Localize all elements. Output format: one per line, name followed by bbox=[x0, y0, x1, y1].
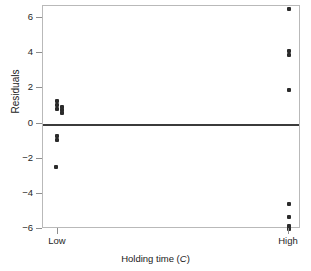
data-point bbox=[287, 88, 291, 92]
y-axis-tick bbox=[36, 123, 42, 124]
y-axis-title: Residuals bbox=[10, 37, 21, 147]
x-axis-title: Holding time (C) bbox=[0, 253, 311, 264]
data-point bbox=[287, 49, 291, 53]
zero-reference-line bbox=[43, 124, 299, 126]
y-axis-tick bbox=[36, 158, 42, 159]
x-axis-tick-label: Low bbox=[48, 236, 65, 246]
data-point bbox=[55, 134, 59, 138]
y-axis-tick-label: −2 bbox=[11, 153, 33, 163]
y-axis-tick-label: −4 bbox=[11, 188, 33, 198]
y-axis-tick bbox=[36, 87, 42, 88]
y-axis-tick-label: −6 bbox=[11, 223, 33, 233]
residual-plot-figure: 6420−2−4−6 LowHigh Residuals Holding tim… bbox=[0, 0, 311, 271]
y-axis-tick bbox=[36, 17, 42, 18]
data-point bbox=[287, 215, 291, 219]
x-axis-tick-label: High bbox=[278, 236, 298, 246]
data-point bbox=[55, 107, 59, 111]
x-axis-tick bbox=[288, 228, 289, 234]
data-point bbox=[287, 7, 291, 11]
y-axis-tick-label: 6 bbox=[11, 12, 33, 22]
data-point bbox=[54, 165, 58, 169]
y-axis-tick bbox=[36, 52, 42, 53]
data-point bbox=[55, 99, 59, 103]
data-point bbox=[287, 53, 291, 57]
data-point bbox=[287, 202, 291, 206]
y-axis-tick bbox=[36, 193, 42, 194]
x-axis-title-symbol: C bbox=[180, 253, 187, 264]
x-axis-tick bbox=[57, 228, 58, 234]
x-axis-title-suffix: ) bbox=[187, 253, 190, 264]
x-axis-title-text: Holding time ( bbox=[121, 253, 180, 264]
plot-area bbox=[42, 5, 300, 228]
data-point bbox=[55, 138, 59, 142]
data-point bbox=[60, 111, 64, 115]
y-axis-tick bbox=[36, 228, 42, 229]
